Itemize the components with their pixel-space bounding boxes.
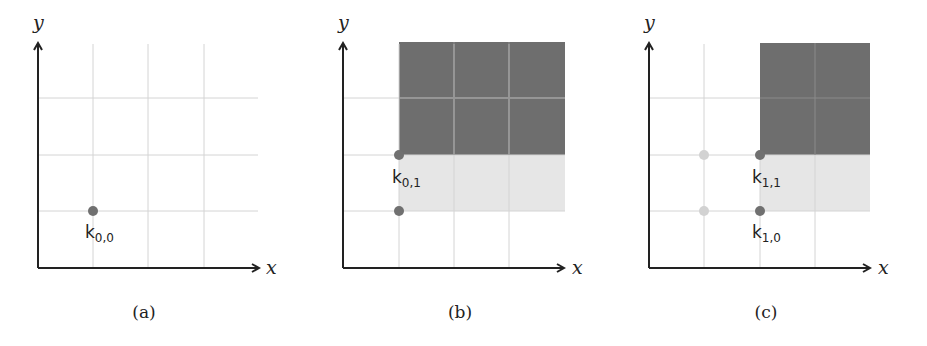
x-axis-label: x	[878, 256, 889, 278]
x-axis-label: x	[266, 256, 277, 278]
x-axis-label: x	[572, 256, 583, 278]
point-k11	[755, 150, 765, 160]
y-axis-label: y	[643, 11, 655, 33]
light-region	[399, 155, 565, 211]
faded-point-top	[699, 150, 709, 160]
figure: y x k0,0 (a) y x k0,1	[0, 0, 927, 346]
point-k00	[88, 206, 98, 216]
caption-c: (c)	[755, 302, 778, 322]
panel-c: y x k1,1 k1,0 (c)	[643, 11, 889, 322]
faded-point-bottom	[699, 206, 709, 216]
y-axis-label: y	[337, 11, 349, 33]
panel-a: y x k0,0 (a)	[32, 11, 277, 322]
panel-b: y x k0,1 (b)	[337, 11, 583, 322]
point-bottom	[394, 206, 404, 216]
point-label-k10: k1,0	[752, 222, 781, 245]
point-label-k00: k0,0	[85, 222, 114, 245]
grid	[38, 44, 258, 268]
y-axis-label: y	[32, 11, 44, 33]
caption-b: (b)	[448, 302, 472, 322]
point-top	[394, 150, 404, 160]
point-k10	[755, 206, 765, 216]
caption-a: (a)	[132, 302, 155, 322]
